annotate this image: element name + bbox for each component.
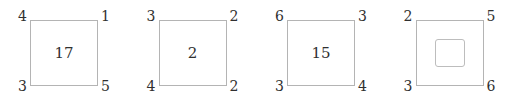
panel-1-center-value: 17 — [30, 20, 98, 86]
panel-3-corner-top-right: 3 — [358, 9, 367, 23]
panel-1: 4 1 3 5 17 — [0, 0, 129, 106]
panel-1-corner-top-left: 4 — [18, 9, 27, 23]
panel-3-corner-bottom-left: 3 — [275, 79, 284, 93]
square-diagram-figure: 4 1 3 5 17 3 2 4 2 2 6 3 3 4 15 2 5 3 6 — [0, 0, 514, 106]
panel-4-inner-square — [435, 39, 465, 67]
panel-3-corner-top-left: 6 — [275, 9, 284, 23]
panel-1-corner-bottom-right: 5 — [101, 79, 110, 93]
panel-2-corner-bottom-right: 2 — [230, 79, 239, 93]
panel-2: 3 2 4 2 2 — [129, 0, 258, 106]
panel-1-corner-bottom-left: 3 — [18, 79, 27, 93]
panel-3-center-value: 15 — [287, 20, 355, 86]
panel-4-corner-bottom-left: 3 — [404, 79, 413, 93]
panel-4-corner-top-right: 5 — [487, 9, 496, 23]
panel-2-center-value: 2 — [159, 20, 227, 86]
panel-2-corner-top-left: 3 — [147, 9, 156, 23]
panel-1-corner-top-right: 1 — [101, 9, 110, 23]
panel-3: 6 3 3 4 15 — [257, 0, 386, 106]
panel-3-corner-bottom-right: 4 — [358, 79, 367, 93]
panel-4-corner-bottom-right: 6 — [487, 79, 496, 93]
panel-2-corner-bottom-left: 4 — [147, 79, 156, 93]
panel-4-corner-top-left: 2 — [404, 9, 413, 23]
panel-2-corner-top-right: 2 — [230, 9, 239, 23]
panel-4: 2 5 3 6 — [386, 0, 514, 106]
